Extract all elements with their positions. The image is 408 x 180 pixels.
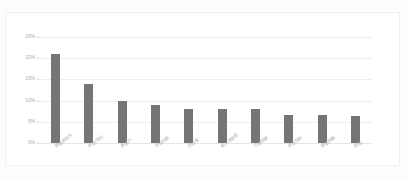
y-axis-tick-label: 20%: [26, 55, 36, 61]
document-page: 25%20%15%10%5%0% 销售额增长利润/毛利新客户市场份额回款率客户满…: [0, 0, 408, 180]
y-axis-tick-label: 15%: [26, 76, 36, 82]
document-header-text: [96, 0, 216, 9]
bar[interactable]: [318, 115, 327, 143]
y-axis-tick-label: 10%: [26, 98, 36, 104]
x-axis-category-labels: 销售额增长利润/毛利新客户市场份额回款率客户满意度订单数量成本控制渠道拓展其他: [39, 143, 372, 167]
bar[interactable]: [251, 109, 260, 143]
bar[interactable]: [184, 109, 193, 143]
bar[interactable]: [284, 115, 293, 143]
bars-layer: [39, 37, 372, 143]
y-axis-tick-label: 5%: [28, 119, 35, 125]
chart-plot-area: 25%20%15%10%5%0%: [39, 37, 372, 143]
chart-frame: 25%20%15%10%5%0% 销售额增长利润/毛利新客户市场份额回款率客户满…: [5, 12, 400, 166]
y-axis-tick-label: 25%: [26, 34, 36, 40]
bar[interactable]: [118, 101, 127, 143]
bar[interactable]: [151, 105, 160, 143]
y-axis-tick-label: 0%: [28, 140, 35, 146]
bar[interactable]: [84, 84, 93, 143]
bar[interactable]: [51, 54, 60, 143]
bar[interactable]: [218, 109, 227, 143]
